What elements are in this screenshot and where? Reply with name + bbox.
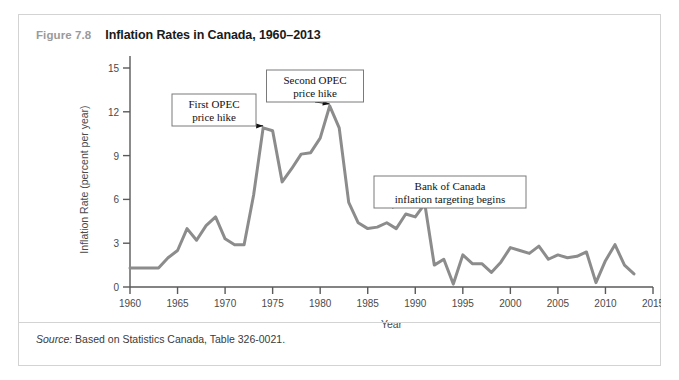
- x-tick-label: 1995: [452, 298, 475, 309]
- chart-render-group: 0369121519601965197019751980198519901995…: [78, 56, 661, 330]
- source-note: Source: Based on Statistics Canada, Tabl…: [36, 333, 285, 345]
- x-tick-label: 1960: [119, 298, 142, 309]
- annotation-second-opec: Second OPECprice hike: [267, 70, 364, 106]
- annotation-label: inflation targeting begins: [395, 193, 505, 205]
- source-label: Source:: [36, 333, 72, 345]
- annotation-first-opec: First OPECprice hike: [172, 94, 263, 129]
- chart-area: 0369121519601965197019751980198519901995…: [18, 14, 661, 366]
- annotation-boc-inflation-targeting: Bank of Canadainflation targeting begins: [374, 176, 526, 208]
- y-tick-label: 9: [113, 151, 119, 162]
- x-tick-label: 1965: [166, 298, 189, 309]
- y-tick-label: 15: [108, 63, 120, 74]
- x-tick-label: 1985: [357, 298, 380, 309]
- annotation-label: price hike: [293, 87, 337, 99]
- x-tick-label: 2000: [499, 298, 522, 309]
- figure-root: Figure 7.8 Inflation Rates in Canada, 19…: [0, 0, 679, 380]
- annotation-label: First OPEC: [188, 98, 239, 110]
- source-text: Based on Statistics Canada, Table 326-00…: [72, 333, 285, 345]
- y-tick-label: 3: [113, 238, 119, 249]
- x-tick-label: 1990: [404, 298, 427, 309]
- annotation-label: Second OPEC: [283, 74, 346, 86]
- annotation-label: price hike: [192, 111, 236, 123]
- x-tick-label: 2015: [642, 298, 661, 309]
- x-tick-label: 1970: [214, 298, 237, 309]
- x-tick-label: 2010: [594, 298, 617, 309]
- x-tick-label: 1980: [309, 298, 332, 309]
- x-axis-title: Year: [381, 318, 403, 330]
- y-tick-label: 6: [113, 194, 119, 205]
- y-axis-title: Inflation Rate (percent per year): [78, 105, 90, 253]
- source-divider: [19, 322, 660, 323]
- y-tick-label: 12: [108, 107, 120, 118]
- annotation-label: Bank of Canada: [415, 180, 486, 192]
- y-tick-label: 0: [113, 282, 119, 293]
- x-tick-label: 1975: [262, 298, 285, 309]
- inflation-line-chart: 0369121519601965197019751980198519901995…: [18, 14, 661, 366]
- x-tick-label: 2005: [547, 298, 570, 309]
